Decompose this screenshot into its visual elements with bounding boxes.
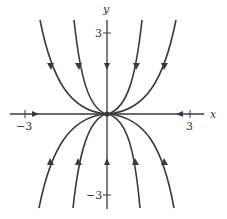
x-tick-label-neg3: −3 [16, 120, 32, 133]
y-axis-label: y [102, 3, 110, 16]
arrow-down-icon [104, 63, 110, 70]
phase-portrait: y x −3 3 3 −3 [0, 0, 227, 219]
arrow-up-icon [104, 158, 110, 165]
arrow-right-icon [32, 111, 39, 117]
trajectory-upper-outer-right [109, 20, 176, 114]
arrow-left-icon [176, 111, 183, 117]
y-tick-label-3: 3 [95, 27, 102, 40]
equilibrium-point [104, 111, 109, 116]
y-tick-label-neg3: −3 [86, 189, 102, 202]
x-tick-label-3: 3 [186, 120, 193, 133]
x-axis-label: x [210, 108, 217, 121]
